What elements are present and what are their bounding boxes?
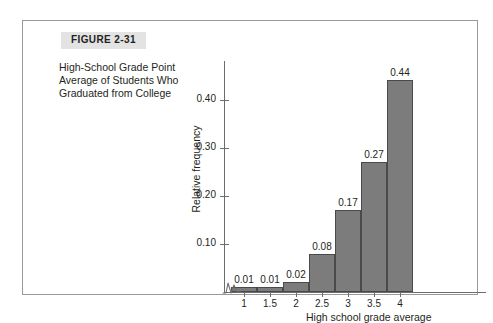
y-axis-line [224,61,225,292]
axis-break-icon [222,279,242,295]
y-tick-label: 0.30 [197,141,216,152]
x-tick-label: 2 [293,298,299,309]
y-tick-0.20: 0.20 [220,196,229,197]
x-tick-1.5 [270,292,271,297]
x-axis-line [224,292,486,293]
x-tick-4 [400,292,401,297]
x-tick-2.5 [322,292,323,297]
bar-value-label: 0.44 [390,67,409,78]
y-tick-label: 0.40 [197,93,216,104]
x-axis-title: High school grade average [306,311,432,323]
y-tick-0.30: 0.30 [220,148,229,149]
x-tick-2 [296,292,297,297]
bar [309,254,335,293]
y-tick-0.40: 0.40 [220,100,229,101]
x-tick-label: 4 [397,298,403,309]
x-tick-label: 3 [345,298,351,309]
x-tick-label: 1 [241,298,247,309]
bar [283,282,309,292]
figure-number-badge: FIGURE 2-31 [61,32,146,49]
bar-value-label: 0.08 [312,241,331,252]
bar-value-label: 0.27 [364,149,383,160]
x-tick-3.5 [374,292,375,297]
x-tick-label: 1.5 [263,298,277,309]
x-tick-1 [244,292,245,297]
bar-value-label: 0.01 [260,274,279,285]
y-axis-title: Relative frequency [190,99,202,239]
bar [257,287,283,292]
y-tick-label: 0.10 [197,237,216,248]
figure-frame: FIGURE 2-31 High-School Grade Point Aver… [22,20,478,295]
x-tick-label: 3.5 [367,298,381,309]
y-tick-0.10: 0.10 [220,244,229,245]
bar [335,210,361,292]
figure-caption: High-School Grade Point Average of Stude… [59,61,183,101]
y-tick-label: 0.20 [197,189,216,200]
bar [361,162,387,292]
x-tick-label: 2.5 [315,298,329,309]
histogram-chart: Relative frequency High school grade ave… [178,51,493,313]
x-tick-3 [348,292,349,297]
bar [387,80,413,292]
bar-value-label: 0.02 [286,269,305,280]
bar-value-label: 0.17 [338,197,357,208]
